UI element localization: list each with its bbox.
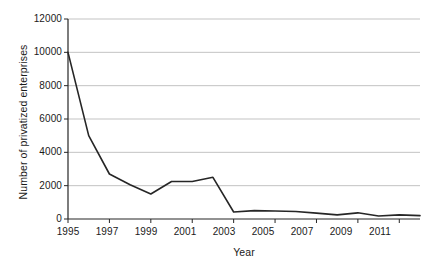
chart-figure: Number of privatized enterprises 12000 1…: [0, 0, 428, 272]
plot-area: [0, 0, 428, 272]
x-axis-ticks: [68, 219, 399, 223]
gridlines: [68, 19, 420, 186]
data-series-line: [68, 52, 420, 216]
